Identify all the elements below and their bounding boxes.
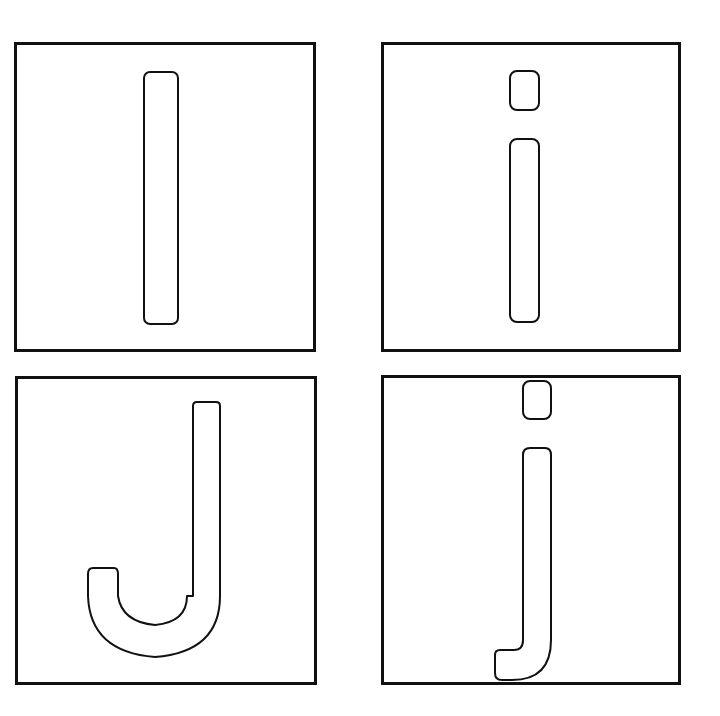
letter-j-dot-outline [523, 381, 551, 419]
letter-worksheet: I i J j [0, 0, 720, 716]
letter-card-lowercase-j [383, 377, 680, 684]
letter-i-stem-outline [510, 139, 539, 322]
letter-card-uppercase-i [16, 44, 315, 351]
letter-card-uppercase-j [17, 378, 316, 684]
letter-i-dot-outline [510, 71, 539, 110]
letter-card-lowercase-i [383, 44, 680, 351]
letter-i-uppercase-outline [144, 72, 178, 324]
